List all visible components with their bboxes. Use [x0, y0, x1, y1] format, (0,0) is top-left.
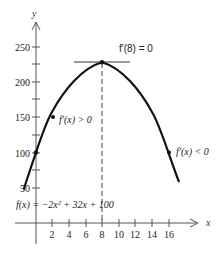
- x-tick-4: 4: [67, 229, 72, 240]
- x-tick-6: 6: [84, 229, 89, 240]
- x-tick-12: 12: [130, 229, 140, 240]
- increasing-annotation: f′(x) > 0: [59, 114, 92, 126]
- x-tick-labels: 2 4 6 8 10 12 14 16: [50, 229, 175, 240]
- y-tick-200: 200: [15, 77, 30, 88]
- point-decreasing: [167, 151, 171, 155]
- x-tick-14: 14: [147, 229, 157, 240]
- y-tick-100: 100: [15, 148, 30, 159]
- y-tick-150: 150: [15, 112, 30, 123]
- y-tick-labels: 250 200 150 100 50: [15, 42, 30, 194]
- point-maximum: [100, 60, 104, 64]
- x-axis-label: x: [205, 217, 211, 228]
- x-axis: x: [15, 217, 211, 228]
- decreasing-annotation: f′(x) < 0: [176, 146, 209, 158]
- y-axis-label: y: [31, 8, 37, 19]
- x-tick-10: 10: [114, 229, 124, 240]
- parabola-curve: [24, 62, 179, 189]
- function-label: f(x) = −2x² + 32x + 100: [16, 199, 114, 211]
- x-tick-16: 16: [164, 229, 174, 240]
- y-tick-250: 250: [15, 42, 30, 53]
- x-tick-2: 2: [50, 229, 55, 240]
- x-tick-8: 8: [100, 229, 105, 240]
- derivative-chart: x y 250 200 150 100 50 2 4: [0, 0, 224, 258]
- point-increasing: [51, 115, 55, 119]
- max-annotation: f′(8) = 0: [119, 43, 153, 54]
- point-y-intercept: [34, 150, 38, 154]
